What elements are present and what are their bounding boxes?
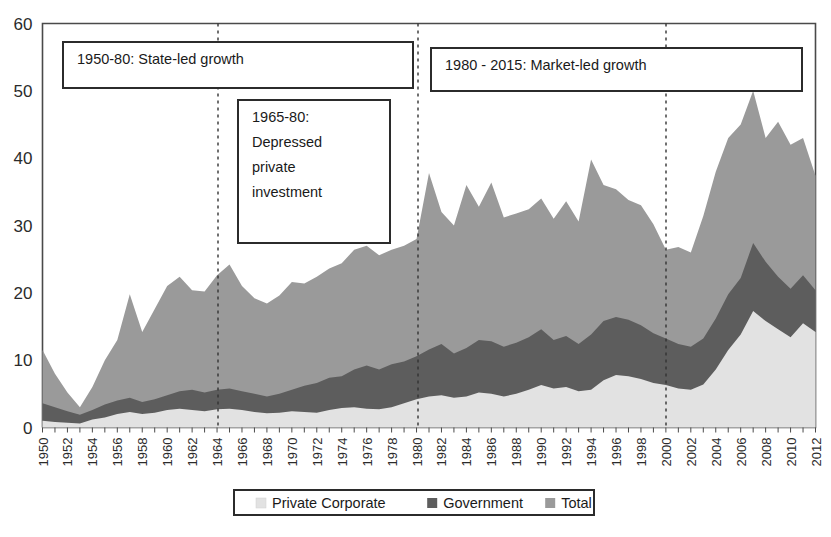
- y-axis-tick-label: 20: [14, 284, 33, 303]
- x-axis-ticks: 1950195219541956195819601962196419661968…: [36, 438, 824, 467]
- annotation-line: private: [252, 159, 296, 175]
- x-axis-tick-label: 1980: [410, 438, 425, 467]
- x-axis-tick-label: 1972: [310, 438, 325, 467]
- x-axis-tick-label: 1950: [36, 438, 51, 467]
- x-axis-tick-label: 1994: [584, 438, 599, 467]
- chart-canvas: 0102030405060 19501952195419561958196019…: [0, 0, 831, 537]
- y-axis-tick-label: 30: [14, 217, 33, 236]
- x-axis-tick-label: 2010: [784, 438, 799, 467]
- legend-label: Government: [443, 495, 523, 511]
- series-areas: [43, 91, 816, 428]
- x-axis-tick-label: 1958: [135, 438, 150, 467]
- x-axis-tick-label: 2004: [709, 438, 724, 467]
- annotation-line: 1950-80: State-led growth: [77, 51, 244, 67]
- y-axis-tick-label: 0: [23, 419, 32, 438]
- x-axis-tick-label: 1982: [434, 438, 449, 467]
- annotation-depressed-private-investment: 1965-80:Depressedprivateinvestment: [238, 100, 390, 243]
- x-axis-tick-label: 1970: [285, 438, 300, 467]
- x-axis-tick-label: 1954: [85, 438, 100, 467]
- chart-legend: Private CorporateGovernmentTotal: [234, 490, 594, 515]
- x-axis-tick-label: 1968: [260, 438, 275, 467]
- annotation-line: Depressed: [252, 134, 322, 150]
- legend-swatch: [427, 498, 437, 508]
- x-axis-tick-label: 1952: [60, 438, 75, 467]
- x-axis-tick-label: 1986: [484, 438, 499, 467]
- x-axis-tick-label: 1956: [110, 438, 125, 467]
- annotation-line: 1965-80:: [252, 109, 309, 125]
- y-axis-ticks: 0102030405060: [14, 15, 33, 438]
- y-axis-tick-label: 10: [14, 351, 33, 370]
- x-axis-tick-label: 1984: [459, 438, 474, 467]
- annotation-state-led-growth: 1950-80: State-led growth: [63, 42, 413, 88]
- area-chart: 0102030405060 19501952195419561958196019…: [0, 0, 831, 537]
- y-axis-tick-label: 50: [14, 82, 33, 101]
- x-axis-tick-label: 1964: [210, 438, 225, 467]
- legend-label: Total: [561, 495, 592, 511]
- x-axis-tick-label: 1966: [235, 438, 250, 467]
- legend-label: Private Corporate: [272, 495, 386, 511]
- y-axis-tick-label: 40: [14, 149, 33, 168]
- x-axis-tick-label: 1960: [160, 438, 175, 467]
- x-axis-tick-label: 1962: [185, 438, 200, 467]
- annotation-market-led-growth: 1980 - 2015: Market-led growth: [431, 48, 802, 91]
- legend-swatch: [256, 498, 266, 508]
- legend-item-private-corporate[interactable]: Private Corporate: [256, 495, 386, 511]
- x-axis-tick-label: 1976: [360, 438, 375, 467]
- x-axis-tick-label: 1990: [534, 438, 549, 467]
- x-axis-tick-label: 1978: [385, 438, 400, 467]
- x-axis-tick-label: 2006: [734, 438, 749, 467]
- x-axis-tick-label: 1992: [559, 438, 574, 467]
- y-axis-tick-label: 60: [14, 15, 33, 34]
- x-axis-tick-label: 1998: [634, 438, 649, 467]
- x-axis-tick-label: 1974: [335, 438, 350, 467]
- annotation-line: investment: [252, 184, 322, 200]
- annotation-line: 1980 - 2015: Market-led growth: [445, 57, 647, 73]
- x-axis-tick-label: 2002: [684, 438, 699, 467]
- x-axis-tick-label: 2000: [659, 438, 674, 467]
- x-axis-tick-label: 2012: [809, 438, 824, 467]
- x-axis-tick-label: 1988: [509, 438, 524, 467]
- x-axis-tick-label: 2008: [759, 438, 774, 467]
- x-axis-tick-label: 1996: [609, 438, 624, 467]
- legend-swatch: [545, 498, 555, 508]
